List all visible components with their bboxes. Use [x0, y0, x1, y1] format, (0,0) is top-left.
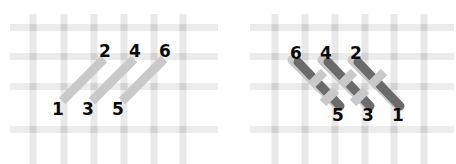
label-left-top-4: 4	[129, 43, 141, 60]
label-right-bottom-1: 1	[392, 107, 404, 124]
panel-unwoven-canvas	[0, 0, 228, 164]
label-left-bottom-5: 5	[112, 101, 124, 118]
label-right-bottom-3: 3	[362, 107, 374, 124]
label-left-top-2: 2	[99, 43, 111, 60]
label-left-top-6: 6	[159, 43, 171, 60]
label-right-top-6: 6	[290, 45, 302, 62]
label-right-bottom-5: 5	[332, 107, 344, 124]
label-left-bottom-1: 1	[52, 101, 64, 118]
label-right-top-4: 4	[320, 45, 332, 62]
weave-diagram-figure: 1 3 5 2 4 6	[0, 0, 456, 164]
label-right-top-2: 2	[350, 45, 362, 62]
light-strands-left	[62, 59, 164, 101]
panel-woven: 6 4 2 5 3 1	[228, 0, 456, 164]
panel-unwoven: 1 3 5 2 4 6	[0, 0, 228, 164]
panel-woven-canvas	[228, 0, 456, 164]
label-left-bottom-3: 3	[82, 101, 94, 118]
